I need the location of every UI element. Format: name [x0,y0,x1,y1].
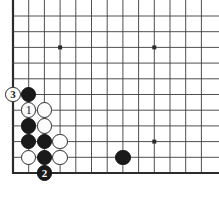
star-point-upper-right [152,45,156,49]
star-point-upper-left [58,45,62,49]
stone-move-number-1: 1 [26,104,32,116]
black-stone-move-2: 2 [37,165,53,181]
stone-move-number-2: 2 [42,168,48,179]
white-stone-d [37,118,53,134]
go-board-diagram: 123 [0,0,219,200]
stone-move-number-3: 3 [10,89,16,100]
black-stone-i [37,150,53,166]
white-stone-move-3: 3 [5,87,21,103]
black-stone-right [115,150,131,166]
white-stone-j [52,150,68,166]
white-stone-g [52,134,68,150]
star-point-lower-right [152,140,156,144]
white-stone-b [37,102,53,118]
black-stone-c [21,118,37,134]
